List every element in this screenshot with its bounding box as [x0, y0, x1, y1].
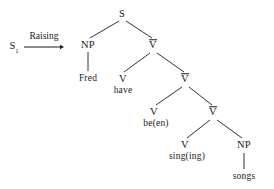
tree-branch-s-vbar1 [126, 21, 152, 38]
tree-edges-layer [0, 0, 274, 189]
tree-node-v3: V [181, 140, 189, 151]
tree-branch-vbar2-v2 [156, 87, 182, 105]
tree-branch-vbar3-v3 [187, 120, 210, 138]
overbar-glyph: V [209, 106, 217, 118]
source-node-subscript: 1 [15, 47, 18, 54]
tree-branch-s-np1 [90, 21, 119, 38]
tree-node-vbar2: V [181, 73, 189, 85]
right-arrow-head-icon [60, 45, 64, 49]
tree-branch-vbar3-np2 [217, 120, 242, 138]
arrow-label-raising: Raising [29, 31, 58, 41]
tree-node-have: have [114, 86, 133, 96]
syntax-tree-figure: S1 Raising SNPFredVVhaveVVbe(en)VVsing(i… [0, 0, 274, 189]
overbar-glyph: V [149, 39, 157, 51]
tree-node-v2: V [150, 107, 158, 118]
tree-node-s: S [119, 9, 125, 20]
tree-branch-vbar2-vbar3 [189, 87, 212, 105]
tree-branch-vbar1-vbar2 [157, 53, 184, 72]
tree-branch-vbar1-v1 [124, 53, 150, 72]
source-node-s1: S1 [9, 40, 18, 53]
tree-node-np1: NP [81, 40, 95, 51]
tree-node-songs: songs [233, 172, 256, 182]
tree-node-fred: Fred [79, 74, 97, 84]
tree-node-vbar1: V [149, 39, 157, 51]
tree-node-vbar3: V [209, 106, 217, 118]
overbar-glyph: V [181, 73, 189, 85]
tree-node-singing: sing(ing) [169, 152, 205, 162]
tree-node-v1: V [119, 74, 127, 85]
tree-node-been: be(en) [143, 119, 168, 129]
tree-node-np2: NP [237, 140, 251, 151]
